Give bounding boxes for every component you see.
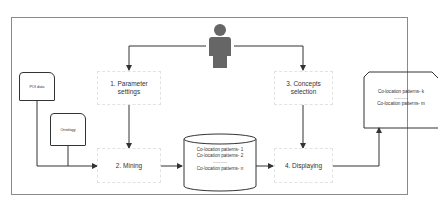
step-parameter-settings: 1. Parametersettings bbox=[97, 71, 161, 105]
step-mining: 2. Mining bbox=[97, 148, 161, 183]
step-displaying: 4. Displaying bbox=[274, 148, 333, 183]
step-2-label: 2. Mining bbox=[116, 162, 142, 170]
poi-data-label: POI data bbox=[30, 85, 45, 89]
input-ontology: Ontology bbox=[50, 113, 86, 146]
step-1-line1: 1. Parameter bbox=[110, 80, 148, 87]
step-3-line1: 3. Concepts bbox=[286, 80, 321, 87]
ontology-label: Ontology bbox=[60, 128, 75, 132]
database-patterns: Co-location patterns- 1 Co-location patt… bbox=[186, 147, 254, 172]
step-3-line2: selection bbox=[291, 88, 317, 95]
output-line: Co-location patterns- m bbox=[366, 101, 436, 107]
step-1-line2: settings bbox=[118, 88, 140, 95]
input-poi-data: POI data bbox=[19, 72, 55, 101]
step-4-label: 4. Displaying bbox=[285, 162, 322, 170]
db-line: Co-location patterns- n bbox=[186, 166, 254, 172]
user-icon bbox=[209, 24, 231, 68]
step-concepts-selection: 3. Conceptsselection bbox=[274, 71, 333, 105]
output-patterns: Co-location patterns- k ........... Co-l… bbox=[366, 89, 436, 108]
